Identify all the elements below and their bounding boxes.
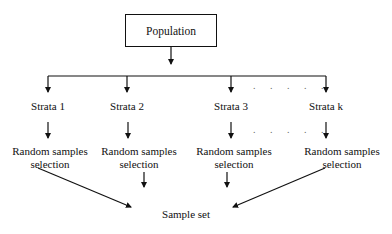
sample-set-label: Sample set (146, 208, 226, 221)
strata-3-label: Strata 3 (201, 100, 261, 113)
selection-2: Random samples selection (89, 145, 189, 171)
selection-1: Random samples selection (0, 145, 100, 171)
selection-3-line1: Random samples (184, 145, 284, 158)
selection-2-line1: Random samples (89, 145, 189, 158)
selection-2-line2: selection (89, 158, 189, 171)
arrow-selection-k-to-sample-set (233, 168, 325, 207)
selection-k-line2: selection (292, 158, 392, 171)
selection-k-line1: Random samples (292, 145, 392, 158)
ellipsis-selection: . . . . . (253, 124, 330, 135)
ellipsis-strata: . . . . . (253, 80, 330, 91)
selection-k: Random samples selection (292, 145, 392, 171)
strata-1-label: Strata 1 (18, 100, 78, 113)
stratified-sampling-diagram: Population Strata 1 Strata 2 Strata 3 St… (0, 0, 392, 234)
strata-2-label: Strata 2 (97, 100, 157, 113)
selection-3: Random samples selection (184, 145, 284, 171)
selection-1-line1: Random samples (0, 145, 100, 158)
strata-k-label: Strata k (296, 100, 356, 113)
selection-1-line2: selection (0, 158, 100, 171)
population-box: Population (125, 14, 217, 47)
arrow-selection-1-to-sample-set (38, 168, 131, 207)
population-label: Population (146, 25, 196, 37)
selection-3-line2: selection (184, 158, 284, 171)
